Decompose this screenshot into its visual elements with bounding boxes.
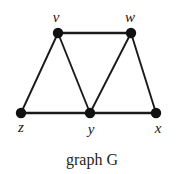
graph-vertex-z	[16, 108, 26, 118]
vertex-label-w: w	[125, 9, 135, 25]
vertex-label-x: x	[154, 120, 162, 136]
graph-vertex-y	[85, 108, 95, 118]
figure-caption: graph G	[66, 151, 118, 169]
graph-edge-v-y	[58, 33, 90, 113]
graph-vertex-x	[151, 108, 161, 118]
vertex-label-y: y	[86, 121, 95, 137]
graph-vertex-w	[126, 28, 136, 38]
graph-canvas: vwzyx graph G	[0, 0, 185, 174]
graph-edge-w-x	[131, 33, 156, 113]
vertex-label-z: z	[17, 119, 24, 135]
vertex-label-v: v	[53, 9, 60, 25]
graph-edge-v-z	[21, 33, 58, 113]
vertices-group	[16, 28, 161, 118]
edges-group	[21, 33, 156, 113]
graph-vertex-v	[53, 28, 63, 38]
graph-edge-w-y	[90, 33, 131, 113]
graph-figure: vwzyx graph G	[0, 0, 185, 174]
